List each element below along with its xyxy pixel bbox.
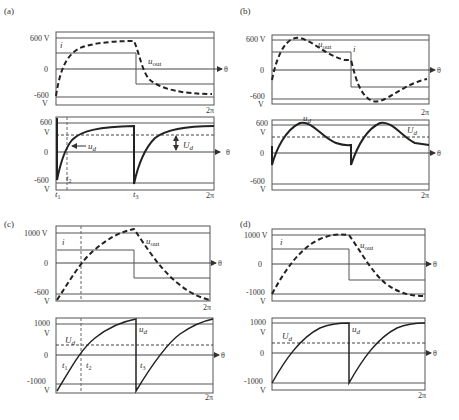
ytick-600: 600 (40, 118, 52, 127)
ytick-v: V (260, 185, 266, 194)
ytick-1000: 1000 (34, 319, 50, 328)
panel-c: (c) θ 1000 V 0 -600 V 2π i uout θ 1000 (4, 219, 225, 402)
panel-d-top-plot: θ 1000 V 0 -1000 V i uout (244, 229, 437, 306)
ytick-0: 0 (44, 351, 48, 360)
ytick-v: V (260, 128, 266, 137)
panel-label-d: (d) (240, 219, 251, 229)
panel-label-a: (a) (4, 6, 14, 16)
ytick-0: 0 (260, 349, 264, 358)
ytick-v: V (260, 328, 266, 337)
theta-label: θ (433, 260, 437, 269)
ytick-1000v: 1000 V (244, 231, 268, 240)
label-u-out: uout (360, 240, 374, 252)
theta-label: θ (226, 148, 230, 157)
label-u-d: ud (352, 324, 361, 336)
ytick-0: 0 (260, 66, 264, 75)
xtick-2pi: 2π (421, 108, 429, 117)
label-t2: t2 (86, 360, 92, 371)
ytick-neg600: -600 (34, 288, 49, 297)
panel-label-c: (c) (4, 219, 14, 229)
theta-label: θ (433, 349, 437, 358)
panel-b: (b) θ 600 V 0 -600 V 2π i uout θ 600 V (240, 6, 441, 200)
panel-c-top-plot: θ 1000 V 0 -600 V 2π i uout (24, 226, 222, 312)
ytick-neg1000: -1000 (246, 288, 265, 297)
ytick-v: V (44, 128, 50, 137)
panel-label-b: (b) (240, 6, 251, 16)
theta-label: θ (218, 259, 222, 268)
ytick-0: 0 (258, 260, 262, 269)
label-t3: t3 (140, 360, 146, 371)
ytick-v: V (44, 185, 50, 194)
ytick-600v: 600 V (246, 35, 266, 44)
ytick-0: 0 (44, 148, 48, 157)
u-d-curve (272, 123, 429, 165)
panel-d-bottom-plot: θ 1000 V 0 -1000 V 2π Ud ud (244, 318, 437, 400)
xtick-2pi: 2π (203, 303, 211, 312)
ytick-600: 600 (256, 119, 268, 128)
label-U-d: Ud (282, 331, 293, 343)
xtick-2pi: 2π (206, 106, 214, 115)
panel-d: (d) θ 1000 V 0 -1000 V i uout θ 1000 V 0 (240, 219, 437, 400)
label-i: i (62, 237, 65, 247)
label-U-d: Ud (183, 140, 194, 152)
label-t2: t2 (66, 173, 72, 184)
label-u-d: ud (88, 141, 97, 153)
ytick-neg1000: -1000 (244, 377, 263, 386)
ytick-0: 0 (260, 149, 264, 158)
ytick-neg600: -600 (34, 176, 49, 185)
xtick-2pi: 2π (421, 191, 429, 200)
ytick-v: V (258, 100, 264, 109)
label-u-out: uout (146, 236, 160, 248)
u-out-curve (272, 234, 424, 296)
panel-c-bottom-plot: θ 1000 V 0 -1000 V 2π Ud ud t1 t2 t3 (27, 318, 225, 402)
theta-label: θ (437, 66, 441, 75)
label-i: i (60, 40, 63, 50)
panel-a-bottom-plot: θ 600 V 0 -600 V 2π ud Ud t2 t1 t3 (34, 117, 230, 200)
ytick-0: 0 (44, 65, 48, 74)
label-t1: t1 (55, 189, 61, 200)
label-t1: t1 (62, 360, 68, 371)
panel-b-bottom-plot: θ 600 V 0 -600 V 2π ud Ud (250, 113, 441, 200)
label-u-d: ud (139, 324, 148, 336)
panel-a: (a) θ 600 V 0 -600 V 2π i uout (4, 6, 230, 200)
xtick-2pi: 2π (205, 393, 213, 402)
ytick-1000v: 1000 V (24, 229, 48, 238)
ytick-v: V (44, 329, 50, 338)
ytick-0: 0 (44, 259, 48, 268)
theta-label: θ (437, 149, 441, 158)
ytick-v: V (44, 386, 50, 395)
theta-label: θ (221, 351, 225, 360)
label-u-out: uout (318, 39, 332, 51)
panel-a-top-plot: θ 600 V 0 -600 V 2π i uout (30, 32, 228, 115)
xtick-2pi: 2π (418, 391, 426, 400)
label-i: i (353, 44, 356, 54)
ytick-v: V (260, 297, 266, 306)
ytick-v: V (260, 386, 266, 395)
panel-b-top-plot: θ 600 V 0 -600 V 2π i uout (246, 35, 441, 117)
ytick-600v: 600 V (30, 34, 50, 43)
label-i: i (280, 237, 283, 247)
ytick-v: V (42, 99, 48, 108)
ytick-1000: 1000 (250, 318, 266, 327)
label-t3: t3 (133, 189, 139, 200)
label-u-out: uout (148, 56, 162, 68)
label-U-d: Ud (407, 125, 418, 137)
figure-canvas: (a) θ 600 V 0 -600 V 2π i uout (0, 0, 459, 420)
ytick-neg1000: -1000 (27, 377, 46, 386)
ytick-v: V (44, 297, 50, 306)
theta-label: θ (224, 65, 228, 74)
xtick-2pi: 2π (206, 191, 214, 200)
